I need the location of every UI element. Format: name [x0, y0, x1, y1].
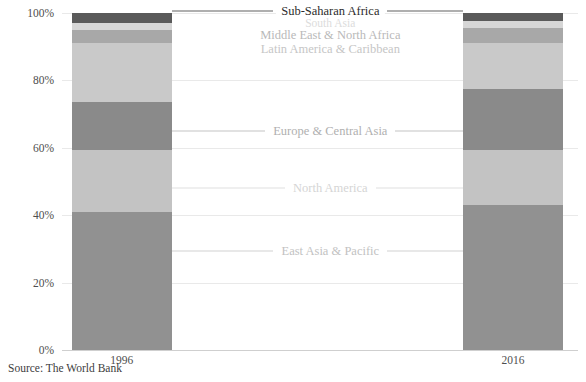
bar-1996[interactable] — [72, 13, 172, 350]
leader-line-right — [387, 250, 463, 251]
leader-line-right — [395, 130, 463, 131]
bar-segment[interactable] — [72, 13, 172, 23]
leader-line-left — [172, 130, 265, 131]
leader-line-left — [172, 250, 273, 251]
bar-segment[interactable] — [72, 30, 172, 43]
bar-segment[interactable] — [463, 150, 563, 206]
series-label: Latin America & Caribbean — [256, 41, 405, 56]
series-label: Europe & Central Asia — [268, 123, 392, 138]
y-tick-label: 0% — [6, 344, 54, 356]
y-tick-label: 40% — [6, 209, 54, 221]
bar-segment[interactable] — [72, 150, 172, 212]
series-label: North America — [288, 181, 373, 196]
chart-container: 0%20%40%60%80%100% Sub-Saharan AfricaSou… — [0, 0, 586, 382]
bar-segment[interactable] — [463, 43, 563, 88]
y-tick-label: 100% — [6, 7, 54, 19]
leader-line-right — [387, 10, 463, 11]
bar-segment[interactable] — [463, 205, 563, 350]
bar-2016[interactable] — [463, 13, 563, 350]
bar-segment[interactable] — [463, 13, 563, 21]
plot-area: 0%20%40%60%80%100% Sub-Saharan AfricaSou… — [62, 13, 578, 350]
bar-segment[interactable] — [463, 28, 563, 43]
source-caption: Source: The World Bank — [8, 362, 122, 374]
bar-segment[interactable] — [72, 43, 172, 102]
leader-line-left — [172, 188, 285, 189]
bar-segment[interactable] — [72, 23, 172, 30]
leader-line-left — [172, 10, 273, 11]
y-tick-label: 80% — [6, 74, 54, 86]
y-tick-label: 60% — [6, 142, 54, 154]
y-tick-label: 20% — [6, 277, 54, 289]
leader-line-right — [376, 188, 463, 189]
bar-segment[interactable] — [72, 212, 172, 350]
bar-segment[interactable] — [72, 102, 172, 149]
bar-segment[interactable] — [463, 21, 563, 28]
x-tick-label: 2016 — [501, 354, 524, 366]
bar-segment[interactable] — [463, 89, 563, 150]
gridline-0% — [62, 350, 578, 351]
series-label: East Asia & Pacific — [277, 243, 385, 258]
